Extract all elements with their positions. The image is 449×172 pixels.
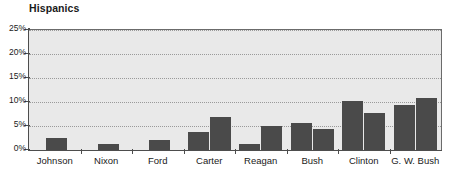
x-axis-label: Nixon [94,155,118,166]
bar [291,123,312,150]
gridline [29,54,441,56]
bar [98,144,119,150]
chart-title: Hispanics [29,2,80,14]
y-tick-label: 15% [0,71,26,81]
x-group-separator [390,149,391,154]
x-axis-label: Reagan [244,155,277,166]
plot-area [29,29,442,150]
x-group-separator [132,149,133,154]
bar [313,129,334,150]
chart-container: Hispanics 25%20%15%10%5%0% JohnsonNixonF… [0,0,449,172]
x-axis-label: Ford [148,155,168,166]
bar [261,126,282,150]
bar [188,132,209,150]
bar [210,117,231,150]
x-axis-label: G. W. Bush [391,155,439,166]
gridline [29,30,441,32]
bar [46,138,67,150]
y-tick-label: 25% [0,23,26,33]
gridline [29,102,441,104]
gridline [29,78,441,80]
y-tick-label: 0% [0,143,26,153]
bar [394,105,415,150]
x-axis-label: Clinton [349,155,379,166]
bar [364,113,385,150]
bar [239,144,260,150]
y-tick-label: 20% [0,47,26,57]
y-tick-label: 10% [0,95,26,105]
x-group-separator [81,149,82,154]
x-axis-label: Bush [301,155,323,166]
x-group-separator [235,149,236,154]
x-axis-label: Carter [196,155,222,166]
bar [342,101,363,150]
x-group-separator [287,149,288,154]
x-group-separator [338,149,339,154]
bar [416,98,437,150]
x-group-separator [184,149,185,154]
bar [149,140,170,150]
y-tick-label: 5% [0,119,26,129]
x-axis-label: Johnson [37,155,73,166]
